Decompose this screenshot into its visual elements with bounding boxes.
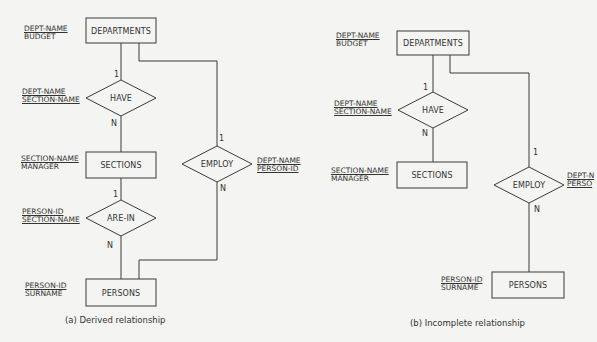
entity-label: PERSONS [102,289,141,298]
conn-departments-employ [139,43,217,146]
attrs-departments-b: DEPT-NAME BUDGET [336,32,380,48]
entity-sections: SECTIONS [397,162,467,188]
cardinality-employ-top: 1 [533,148,538,157]
attrs-sections-a: SECTION-NAME MANAGER [21,155,79,171]
diagram-a: DEPARTMENTS SECTIONS PERSONS HAVE ARE-IN [86,18,252,306]
relationship-label: ARE-IN [107,214,135,223]
relationship-have: HAVE [86,80,156,116]
entity-label: SECTIONS [411,171,452,180]
attrs-persons-a: PERSON-ID SURNAME [25,282,66,298]
key-attribute: SECTION-NAME [22,96,80,104]
attribute: BUDGET [24,33,68,41]
cardinality-have-bottom: N [111,119,117,128]
attrs-persons-b: PERSON-ID SURNAME [441,276,482,292]
attrs-arein-a: PERSON-ID SECTION-NAME [22,208,80,224]
attribute: SURNAME [441,284,482,292]
relationship-employ: EMPLOY [494,167,564,203]
cardinality-employ-top: 1 [219,134,224,143]
relationship-label: HAVE [422,106,444,115]
key-attribute: PERSON-ID [257,165,301,173]
conn-employ-persons [139,182,217,279]
cardinality-employ-bottom: N [534,205,540,214]
cardinality-have-top: 1 [423,83,428,92]
attrs-employ-b: DEPT-N PERSO [567,172,594,188]
attrs-have-b: DEPT-NAME SECTION-NAME [334,100,392,116]
key-attribute: SECTION-NAME [334,108,392,116]
attrs-sections-b: SECTION-NAME MANAGER [331,167,389,183]
relationship-employ: EMPLOY [182,146,252,182]
key-attribute: SECTION-NAME [22,216,80,224]
cardinality-have-top: 1 [114,70,119,79]
relationship-label: EMPLOY [201,160,233,169]
attribute: BUDGET [336,40,380,48]
cardinality-have-bottom: N [422,129,428,138]
entity-persons: PERSONS [86,279,156,306]
caption-derived-relationship: (a) Derived relationship [65,315,166,325]
conn-departments-employ [450,55,529,167]
diagram-b: DEPARTMENTS SECTIONS PERSONS HAVE EMPLOY… [397,31,564,298]
key-attribute: PERSO [567,180,594,188]
entity-label: DEPARTMENTS [91,27,151,36]
er-diagram-figure: DEPARTMENTS SECTIONS PERSONS HAVE ARE-IN [0,0,597,342]
cardinality-employ-bottom: N [220,184,226,193]
relationship-are-in: ARE-IN [86,200,156,236]
attrs-departments-a: DEPT-NAME BUDGET [24,25,68,41]
attribute: MANAGER [331,175,389,183]
attribute: SURNAME [25,290,66,298]
attribute: MANAGER [21,163,79,171]
entity-departments: DEPARTMENTS [86,18,156,43]
attrs-have-a: DEPT-NAME SECTION-NAME [22,88,80,104]
relationship-label: EMPLOY [513,181,545,190]
attrs-employ-a: DEPT-NAME PERSON-ID [257,157,301,173]
cardinality-arein-bottom: N [107,241,113,250]
relationship-have: HAVE [398,92,468,128]
entity-departments: DEPARTMENTS [397,31,469,55]
cardinality-arein-top: 1 [113,190,118,199]
relationship-label: HAVE [110,94,132,103]
entity-label: DEPARTMENTS [403,39,463,48]
entity-label: PERSONS [509,281,548,290]
entity-persons: PERSONS [492,272,564,298]
entity-sections: SECTIONS [86,152,156,178]
entity-label: SECTIONS [100,161,141,170]
caption-incomplete-relationship: (b) Incomplete relationship [410,318,525,328]
